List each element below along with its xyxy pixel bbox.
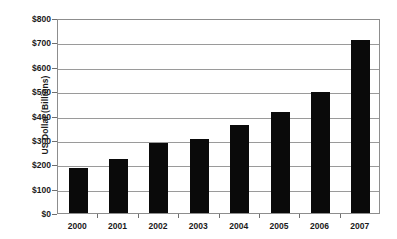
bar: [271, 112, 290, 213]
y-axis-tick-label: $500: [7, 87, 51, 97]
gridline: [58, 93, 379, 94]
bar: [69, 168, 88, 213]
x-axis-tick-label: 2006: [299, 221, 339, 231]
x-axis-tick-mark: [299, 214, 300, 218]
y-axis-tick-label: $400: [7, 112, 51, 122]
y-axis-tick-label: $800: [7, 14, 51, 24]
x-axis-tick-label: 2007: [340, 221, 380, 231]
bar: [149, 143, 168, 213]
y-axis-tick-label: $700: [7, 38, 51, 48]
y-axis-tick-label: $600: [7, 63, 51, 73]
x-axis-tick-label: 2000: [57, 221, 97, 231]
y-axis-tick-label: $0: [7, 209, 51, 219]
y-axis-tick-label: $200: [7, 160, 51, 170]
bar: [311, 92, 330, 213]
x-axis-tick-mark: [178, 214, 179, 218]
gridline: [58, 166, 379, 167]
x-axis-tick-label: 2002: [138, 221, 178, 231]
y-axis-tick-mark: [52, 214, 57, 215]
x-axis-tick-mark: [219, 214, 220, 218]
plot-area: [57, 19, 380, 214]
x-axis-tick-label: 2005: [259, 221, 299, 231]
y-axis-tick-mark: [52, 141, 57, 142]
x-axis-tick-label: 2001: [98, 221, 138, 231]
y-axis-tick-mark: [52, 190, 57, 191]
bar: [351, 40, 370, 213]
x-axis-tick-mark: [97, 214, 98, 218]
y-axis-tick-mark: [52, 117, 57, 118]
y-axis-tick-label: $100: [7, 185, 51, 195]
y-axis-tick-labels: $0$100$200$300$400$500$600$700$800: [6, 19, 51, 214]
bar: [109, 159, 128, 213]
gridline: [58, 118, 379, 119]
y-axis-tick-mark: [52, 68, 57, 69]
x-axis-tick-marks: [57, 214, 380, 219]
x-axis-tick-mark: [138, 214, 139, 218]
gridline: [58, 142, 379, 143]
x-axis-tick-mark: [259, 214, 260, 218]
y-axis-tick-mark: [52, 165, 57, 166]
y-axis-tick-mark: [52, 43, 57, 44]
x-axis-tick-label: 2004: [219, 221, 259, 231]
gridline: [58, 191, 379, 192]
bar: [230, 125, 249, 213]
x-axis-tick-labels: 20002001200220032004200520062007: [57, 221, 380, 235]
gridline: [58, 44, 379, 45]
bar-chart: US Dollar (Billions) $0$100$200$300$400$…: [0, 0, 397, 239]
y-axis-tick-mark: [52, 19, 57, 20]
y-axis-tick-label: $300: [7, 136, 51, 146]
y-axis-tick-mark: [52, 92, 57, 93]
bar: [190, 139, 209, 213]
gridline: [58, 69, 379, 70]
x-axis-tick-mark: [340, 214, 341, 218]
x-axis-tick-label: 2003: [178, 221, 218, 231]
